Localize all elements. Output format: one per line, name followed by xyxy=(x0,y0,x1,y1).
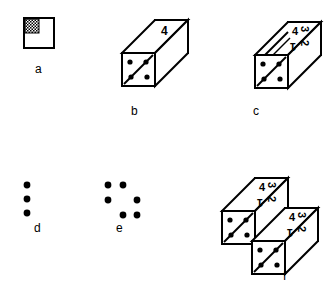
panel-b-numeral-4: 4 xyxy=(161,25,168,37)
panel-c-numeral-4: 4 xyxy=(292,26,298,37)
panel-e-dot xyxy=(134,212,141,219)
panel-d-dot-pattern xyxy=(24,182,31,217)
panel-c-numeral-2: 2 xyxy=(299,40,310,46)
panel-f-upper-numeral-2: 2 xyxy=(266,196,277,202)
panel-f-dot xyxy=(244,232,249,237)
panel-f-dot xyxy=(258,262,263,267)
panel-f-dot xyxy=(274,262,279,267)
panel-b-dot xyxy=(144,74,149,79)
panel-f-lower-numeral-4: 4 xyxy=(289,212,295,223)
panel-c-dot xyxy=(276,61,281,66)
panel-f-upper-numeral-3: 3 xyxy=(266,182,277,188)
panel-f-lower-numeral-3: 3 xyxy=(296,212,307,218)
figure-svg xyxy=(0,0,335,293)
panel-c-numeral-1: 1 xyxy=(290,41,296,52)
panel-f-lower-numeral-1: 1 xyxy=(287,227,293,238)
panel-e-dot xyxy=(105,197,112,204)
panel-d-dot xyxy=(24,210,31,217)
panel-c-dot xyxy=(261,76,266,81)
panel-f-lower-numeral-2: 2 xyxy=(296,226,307,232)
panel-d-dot xyxy=(24,182,31,189)
panel-f-upper-numeral-4: 4 xyxy=(259,182,265,193)
panel-f-upper-numeral-1: 1 xyxy=(257,197,263,208)
panel-label-d: d xyxy=(34,222,41,234)
panel-b-dot xyxy=(143,59,148,64)
panel-e-dot xyxy=(120,212,127,219)
panel-b-dot xyxy=(128,74,133,79)
panel-c-numeral-3: 3 xyxy=(299,26,310,32)
panel-b-dot xyxy=(127,59,132,64)
panel-label-c: c xyxy=(253,105,259,117)
panel-f-dot xyxy=(228,232,233,237)
panel-f-dot xyxy=(273,247,278,252)
panel-c-dot xyxy=(260,61,265,66)
panel-label-a: a xyxy=(35,63,42,75)
panel-a-hatched-quadrant xyxy=(25,19,39,33)
panel-label-f: f xyxy=(283,270,286,282)
panel-e-dot xyxy=(120,182,127,189)
panel-label-b: b xyxy=(131,105,138,117)
panel-f-dot xyxy=(243,217,248,222)
panel-d-dot xyxy=(24,196,31,203)
panel-c-dot xyxy=(277,76,282,81)
panel-e-dot xyxy=(134,197,141,204)
panel-a-square-tile xyxy=(24,18,54,48)
panel-e-dot xyxy=(105,182,112,189)
panel-label-e: e xyxy=(116,222,123,234)
panel-f-dot xyxy=(257,247,262,252)
panel-f-dot xyxy=(227,217,232,222)
figure-canvas xyxy=(0,0,335,293)
